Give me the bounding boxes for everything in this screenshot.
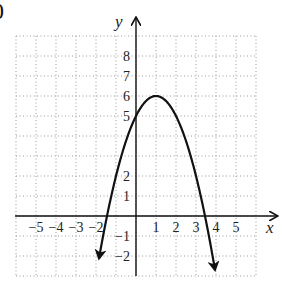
x-tick-label: 3 (193, 220, 200, 235)
x-axis-label: x (265, 218, 274, 237)
x-tick-label: −4 (49, 220, 64, 235)
y-tick-label: 8 (123, 49, 130, 64)
x-tick-label: −5 (29, 220, 44, 235)
x-tick-label: −3 (69, 220, 84, 235)
y-tick-label: −2 (115, 249, 130, 264)
y-tick-label: 5 (123, 109, 130, 124)
y-tick-label: 6 (123, 89, 130, 104)
y-tick-label: 7 (123, 69, 130, 84)
y-tick-label: −1 (115, 229, 130, 244)
x-tick-label: −2 (89, 220, 104, 235)
x-tick-label: 2 (173, 220, 180, 235)
parabola-right-branch (156, 96, 215, 270)
x-tick-label: 4 (213, 220, 220, 235)
x-tick-label: 1 (153, 220, 160, 235)
x-tick-label: 5 (233, 220, 240, 235)
y-tick-label: 1 (123, 189, 130, 204)
y-tick-label: 2 (123, 169, 130, 184)
parabola-graph: xy −5−4−3−212345876521−1−2 (0, 0, 282, 289)
y-axis-label: y (113, 12, 123, 31)
